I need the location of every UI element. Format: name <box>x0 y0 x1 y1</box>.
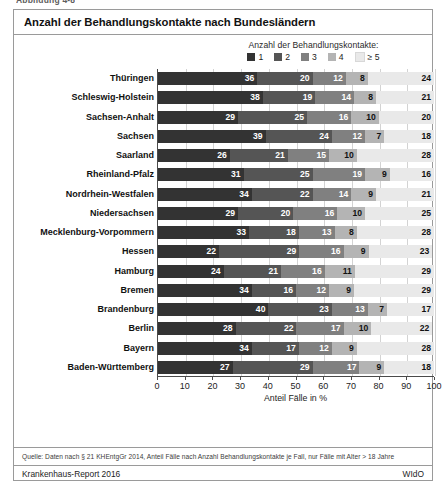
bar-value-label: 25 <box>421 207 431 220</box>
legend-items: 1234≥ 5 <box>211 52 416 62</box>
bar-value-label: 23 <box>420 245 430 258</box>
plot-inner: Thüringen362012824Schleswig-Holstein3819… <box>157 69 434 377</box>
bar-segment: 24 <box>368 72 434 85</box>
bar-value-label: 29 <box>287 245 297 258</box>
bar-segment: 15 <box>288 149 329 162</box>
bar-value-label: 34 <box>239 188 249 201</box>
bar-segment: 20 <box>379 111 434 124</box>
category-label: Sachsen <box>18 130 158 143</box>
category-label: Schleswig-Holstein <box>18 91 158 104</box>
category-label: Nordrhein-Westfalen <box>18 188 158 201</box>
bar-value-label: 17 <box>421 303 431 316</box>
legend-item: 4 <box>328 52 344 62</box>
bar-value-label: 10 <box>359 322 369 335</box>
bar-segment: 12 <box>332 130 365 143</box>
bar-segment: 28 <box>357 226 434 239</box>
category-label: Rheinland-Pfalz <box>18 168 158 181</box>
legend-item: 3 <box>301 52 317 62</box>
legend-label: 4 <box>339 52 344 62</box>
bar-row: Baden-Württemberg272917918 <box>158 361 434 374</box>
bar-value-label: 21 <box>421 188 431 201</box>
tick-label: 80 <box>374 381 384 391</box>
bar-segment: 18 <box>384 361 434 374</box>
bar-row: Sachsen392412718 <box>158 130 434 143</box>
bar-row: Niedersachsen2920161025 <box>158 207 434 220</box>
bar-segment: 9 <box>329 284 354 297</box>
bar-segment: 16 <box>281 265 325 278</box>
bar-value-label: 16 <box>325 207 335 220</box>
tick-mark <box>434 377 435 380</box>
category-label: Saarland <box>18 149 158 162</box>
bar-value-label: 16 <box>421 168 431 181</box>
bar-segment: 16 <box>252 284 296 297</box>
bar-segment: 8 <box>354 91 376 104</box>
bar-value-label: 8 <box>349 226 354 239</box>
bar-segment: 19 <box>313 168 365 181</box>
bar-segment: 17 <box>252 342 299 355</box>
bar-segment: 8 <box>346 72 368 85</box>
bar-segment: 17 <box>387 303 434 316</box>
legend-label: 2 <box>285 52 290 62</box>
bar-value-label: 26 <box>217 149 227 162</box>
bar-segment: 9 <box>344 245 369 258</box>
bar-segment: 9 <box>365 168 390 181</box>
bar-segment: 20 <box>238 207 293 220</box>
bar-segment: 25 <box>365 207 434 220</box>
legend-swatch-icon <box>328 53 336 61</box>
bar-value-label: 18 <box>421 130 431 143</box>
bar-segment: 22 <box>371 322 432 335</box>
bar-value-label: 9 <box>349 342 354 355</box>
bar-segment: 25 <box>238 111 307 124</box>
legend-swatch-icon <box>355 52 365 62</box>
bar-value-label: 28 <box>421 149 431 162</box>
bar-segment: 34 <box>158 284 252 297</box>
category-label: Niedersachsen <box>18 207 158 220</box>
bar-value-label: 33 <box>237 226 247 239</box>
bar-value-label: 20 <box>421 111 431 124</box>
bar-value-label: 38 <box>250 91 260 104</box>
chart-area: Anzahl der Behandlungskontakte: 1234≥ 5 … <box>14 35 432 447</box>
bar-value-label: 19 <box>303 91 313 104</box>
figure-frame: Anzahl der Behandlungskontakte nach Bund… <box>13 9 433 481</box>
bar-value-label: 20 <box>300 72 310 85</box>
x-axis-ticks: 0102030405060708090100 <box>157 377 434 393</box>
bar-segment: 8 <box>335 226 357 239</box>
bar-value-label: 29 <box>421 284 431 297</box>
bar-value-label: 24 <box>421 72 431 85</box>
bar-segment: 12 <box>313 72 346 85</box>
figure-title-bar: Anzahl der Behandlungskontakte nach Bund… <box>14 10 432 35</box>
bar-row: Sachsen-Anhalt2925161020 <box>158 111 434 124</box>
bar-segment: 16 <box>299 245 343 258</box>
bar-row: Schleswig-Holstein381914821 <box>158 91 434 104</box>
bar-segment: 21 <box>224 265 281 278</box>
tick-label: 50 <box>290 381 300 391</box>
bar-segment: 24 <box>266 130 332 143</box>
bar-segment: 13 <box>332 303 368 316</box>
tick-mark <box>379 377 380 380</box>
bar-value-label: 31 <box>231 168 241 181</box>
category-label: Mecklenburg-Vorpommern <box>18 226 158 239</box>
bar-segment: 7 <box>365 130 384 143</box>
tick-mark <box>268 377 269 380</box>
bar-segment: 29 <box>158 111 238 124</box>
bar-segment: 9 <box>332 342 357 355</box>
source-note: Quelle: Daten nach § 21 KHEntgGr 2014, A… <box>22 453 394 460</box>
bar-row: Bayern341712928 <box>158 342 434 355</box>
bar-segment: 18 <box>249 226 299 239</box>
tick-label: 0 <box>154 381 159 391</box>
bar-row: Bremen341612929 <box>158 284 434 297</box>
bar-value-label: 24 <box>211 265 221 278</box>
tick-label: 40 <box>263 381 273 391</box>
bar-value-label: 28 <box>421 342 431 355</box>
bar-value-label: 10 <box>352 207 362 220</box>
tick-mark <box>240 377 241 380</box>
bar-value-label: 29 <box>225 207 235 220</box>
bar-row: Saarland2621151028 <box>158 149 434 162</box>
bar-segment: 24 <box>158 265 224 278</box>
tick-mark <box>296 377 297 380</box>
source-bar: Quelle: Daten nach § 21 KHEntgGr 2014, A… <box>14 447 432 465</box>
bar-segment: 38 <box>158 91 263 104</box>
tick-mark <box>351 377 352 380</box>
bar-value-label: 21 <box>275 149 285 162</box>
bar-segment: 29 <box>219 245 299 258</box>
